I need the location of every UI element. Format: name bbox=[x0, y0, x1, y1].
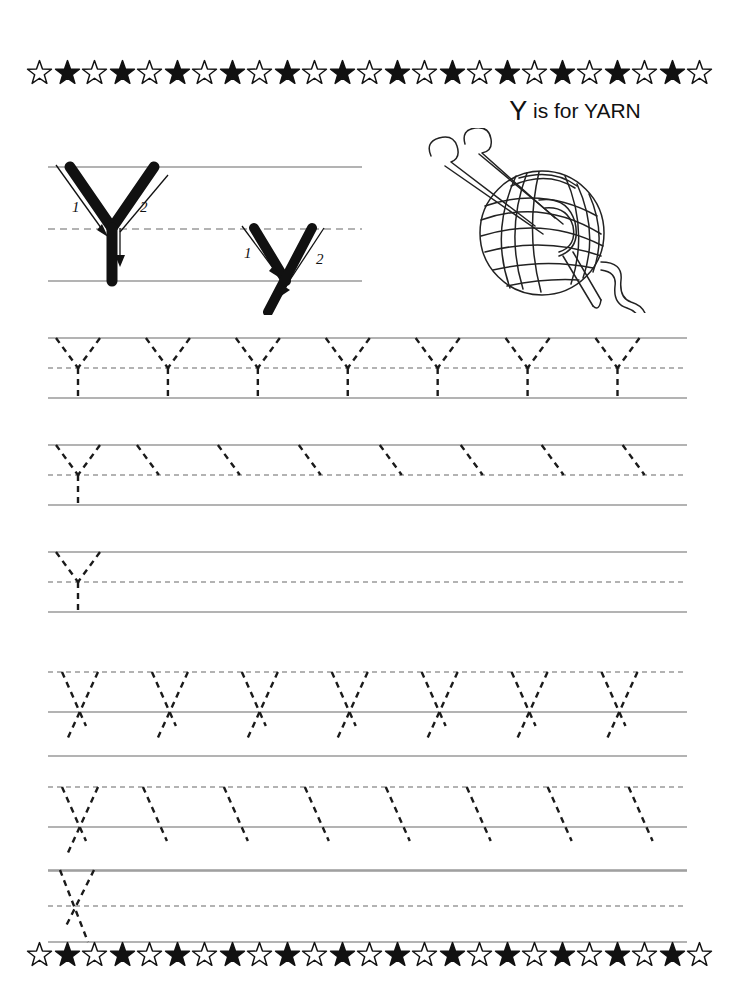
letter-4-stroke-1 bbox=[416, 338, 438, 368]
letter-6-stroke-2a bbox=[617, 338, 639, 368]
star-filled-icon bbox=[384, 59, 411, 86]
star-filled-icon bbox=[164, 941, 191, 968]
star-hollow-icon bbox=[411, 941, 438, 968]
letter-4-stroke-2a bbox=[438, 338, 460, 368]
letter-2-stroke-2 bbox=[242, 672, 266, 726]
star-hollow-icon bbox=[136, 59, 163, 86]
letter-7-stroke-2 bbox=[629, 787, 653, 841]
page-title-letter: Y bbox=[509, 96, 527, 126]
letter-1-stroke-1 bbox=[146, 338, 168, 368]
letter-0-stroke-2a bbox=[78, 445, 100, 475]
star-hollow-icon bbox=[136, 941, 163, 968]
practice-row-3[interactable] bbox=[48, 544, 687, 616]
star-filled-icon bbox=[54, 59, 81, 86]
letter-7-stroke-1 bbox=[623, 445, 645, 475]
letter-0-stroke-1 bbox=[66, 787, 98, 857]
star-border-bottom bbox=[26, 938, 713, 970]
letter-2-stroke-2a bbox=[258, 338, 280, 368]
letter-5-stroke-2a bbox=[528, 338, 550, 368]
letter-4-stroke-2 bbox=[386, 787, 410, 841]
star-filled-icon bbox=[109, 941, 136, 968]
star-hollow-icon bbox=[26, 941, 53, 968]
star-filled-icon bbox=[549, 59, 576, 86]
letter-0-stroke-2a bbox=[78, 338, 100, 368]
row-5-guides bbox=[48, 775, 687, 875]
star-hollow-icon bbox=[301, 59, 328, 86]
star-hollow-icon bbox=[521, 941, 548, 968]
letter-2-stroke-1 bbox=[246, 672, 278, 742]
letter-6-stroke-2 bbox=[601, 672, 625, 726]
star-hollow-icon bbox=[191, 941, 218, 968]
letter-0-stroke-2a bbox=[78, 552, 100, 582]
letter-3-stroke-1 bbox=[336, 672, 368, 742]
letter-4-stroke-1 bbox=[380, 445, 402, 475]
model-letters-diagram: 1 2 1 2 bbox=[40, 140, 390, 315]
letter-5-stroke-1 bbox=[516, 672, 548, 742]
letter-4-stroke-2 bbox=[422, 672, 446, 726]
star-filled-icon bbox=[329, 59, 356, 86]
letter-1-stroke-2a bbox=[168, 338, 190, 368]
letter-6-stroke-1 bbox=[542, 445, 564, 475]
letter-4-stroke-1 bbox=[426, 672, 458, 742]
uppercase-stroke-1-label: 1 bbox=[72, 199, 80, 215]
star-hollow-icon bbox=[521, 59, 548, 86]
practice-row-2[interactable] bbox=[48, 437, 687, 509]
letter-0-stroke-1 bbox=[56, 338, 78, 368]
letter-0-stroke-1 bbox=[56, 552, 78, 582]
letter-3-stroke-1 bbox=[326, 338, 348, 368]
letter-0-stroke-2 bbox=[62, 787, 86, 841]
practice-row-6[interactable] bbox=[48, 862, 687, 948]
page-title: Y is for YARN bbox=[455, 98, 695, 125]
letter-1-stroke-2 bbox=[143, 787, 167, 841]
star-filled-icon bbox=[494, 59, 521, 86]
letter-0-stroke-2 bbox=[62, 672, 86, 726]
uppercase-stroke-2-label: 2 bbox=[140, 199, 148, 215]
star-hollow-icon bbox=[301, 941, 328, 968]
row-6-guides bbox=[48, 862, 687, 948]
star-filled-icon bbox=[604, 59, 631, 86]
trailing-yarn-strand bbox=[601, 262, 647, 313]
star-hollow-icon bbox=[466, 59, 493, 86]
star-hollow-icon bbox=[576, 941, 603, 968]
star-hollow-icon bbox=[26, 59, 53, 86]
letter-5-stroke-2 bbox=[467, 787, 491, 841]
letter-1-stroke-1 bbox=[137, 445, 159, 475]
star-filled-icon bbox=[439, 59, 466, 86]
star-filled-icon bbox=[604, 941, 631, 968]
letter-5-stroke-1 bbox=[506, 338, 528, 368]
letter-3-stroke-2 bbox=[332, 672, 356, 726]
letter-2-stroke-1 bbox=[218, 445, 240, 475]
letter-3-stroke-2 bbox=[305, 787, 329, 841]
letter-3-stroke-2a bbox=[348, 338, 370, 368]
letter-6-stroke-2 bbox=[548, 787, 572, 841]
practice-row-4[interactable] bbox=[48, 660, 687, 760]
practice-row-1[interactable] bbox=[48, 330, 687, 402]
star-filled-icon bbox=[109, 59, 136, 86]
row-1-guides bbox=[48, 330, 687, 402]
star-filled-icon bbox=[384, 941, 411, 968]
page-title-text: is for YARN bbox=[527, 99, 641, 122]
letter-5-stroke-2 bbox=[512, 672, 536, 726]
star-hollow-icon bbox=[686, 59, 713, 86]
practice-row-5[interactable] bbox=[48, 775, 687, 875]
letter-0-stroke-1 bbox=[56, 445, 78, 475]
letter-6-stroke-1 bbox=[595, 338, 617, 368]
model-uppercase-Y bbox=[70, 167, 154, 281]
model-lowercase-y bbox=[254, 228, 312, 312]
letter-2-stroke-2 bbox=[224, 787, 248, 841]
row-4-guides bbox=[48, 660, 687, 760]
star-hollow-icon bbox=[81, 59, 108, 86]
star-filled-icon bbox=[549, 941, 576, 968]
letter-3-stroke-1 bbox=[299, 445, 321, 475]
row-3-guides bbox=[48, 544, 687, 616]
letter-0-stroke-1 bbox=[66, 672, 98, 742]
letter-2-stroke-1 bbox=[236, 338, 258, 368]
letter-0-stroke-1 bbox=[66, 870, 94, 926]
model-letter-section: Y is for YARN 1 bbox=[0, 128, 739, 318]
star-hollow-icon bbox=[466, 941, 493, 968]
star-filled-icon bbox=[219, 941, 246, 968]
star-filled-icon bbox=[494, 941, 521, 968]
letter-6-stroke-1 bbox=[605, 672, 637, 742]
star-hollow-icon bbox=[631, 941, 658, 968]
star-hollow-icon bbox=[631, 59, 658, 86]
